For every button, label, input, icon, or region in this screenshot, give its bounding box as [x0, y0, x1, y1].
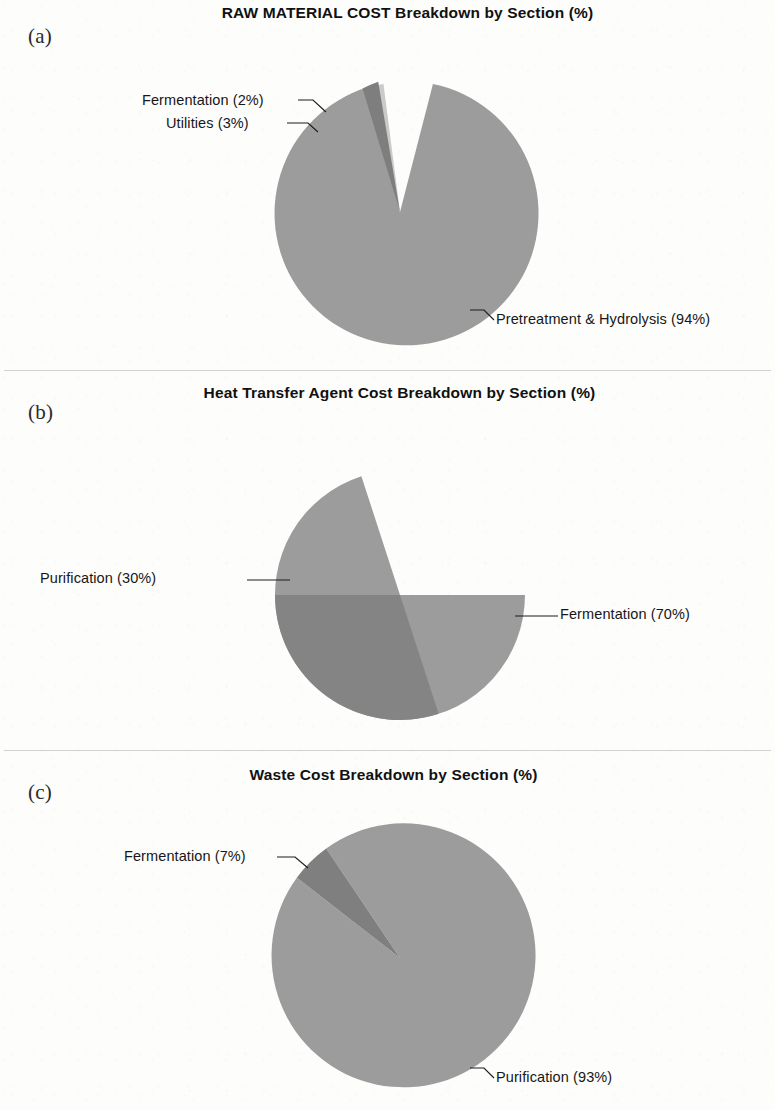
pie-label-fermentation-b: Fermentation (70%) — [560, 606, 690, 622]
pie-label-purification-c: Purification (93%) — [496, 1069, 612, 1085]
pie-label-utilities-a: Utilities (3%) — [166, 115, 249, 131]
pie-slice-pretreatment-a — [275, 84, 539, 345]
pie-label-fermentation-a: Fermentation (2%) — [142, 92, 264, 108]
pie-label-purification-b: Purification (30%) — [40, 570, 156, 586]
leader-line-purification-c — [470, 1068, 494, 1078]
leader-line-fermentation-c — [277, 857, 308, 868]
pie-label-fermentation-c: Fermentation (7%) — [124, 848, 246, 864]
pie-label-pretreatment-a: Pretreatment & Hydrolysis (94%) — [496, 311, 710, 327]
pie-chart-c — [0, 750, 775, 1110]
leader-line-fermentation-a — [298, 100, 326, 112]
pie-chart-b — [0, 370, 775, 750]
chart-panel-a: (a) RAW MATERIAL COST Breakdown by Secti… — [0, 0, 775, 370]
